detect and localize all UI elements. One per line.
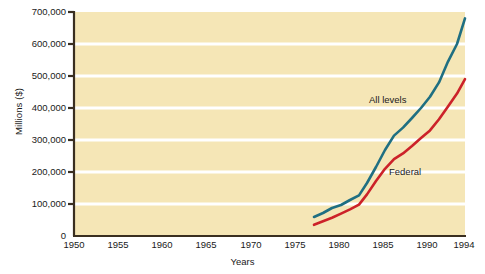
x-axis-tick-labels: 1950 1955 1960 1965 1970 1975 1980 1985 … [0, 239, 485, 255]
x-tick-label: 1965 [195, 239, 216, 250]
series-label-all-levels: All levels [369, 94, 407, 105]
x-tick-label: 1955 [107, 239, 128, 250]
x-tick-label: 1994 [453, 239, 474, 250]
chart-figure: Millions ($) 700,000 600,000 500,000 400… [0, 0, 485, 274]
x-tick-label: 1960 [151, 239, 172, 250]
plot-area [0, 0, 485, 274]
x-tick-label: 1985 [372, 239, 393, 250]
x-tick-label: 1980 [328, 239, 349, 250]
x-axis-title: Years [0, 256, 485, 267]
x-tick-label: 1990 [416, 239, 437, 250]
x-tick-label: 1950 [63, 239, 84, 250]
x-tick-label: 1970 [240, 239, 261, 250]
series-label-federal: Federal [389, 166, 421, 177]
x-tick-label: 1975 [284, 239, 305, 250]
